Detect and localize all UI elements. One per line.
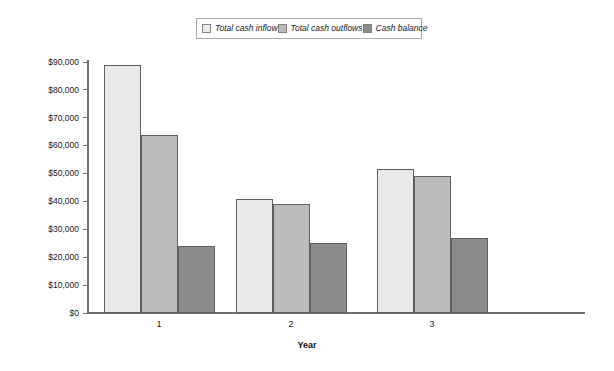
x-axis-tick-label: 2 — [261, 320, 321, 329]
y-axis-tick-label: $70,000 — [48, 114, 83, 123]
y-axis-tick-label: $40,000 — [48, 197, 83, 206]
bar-chart: Total cash inflow Total cash outflows Ca… — [0, 0, 614, 371]
plot-area — [87, 62, 585, 313]
bar[interactable] — [414, 176, 451, 313]
legend-swatch-icon — [202, 24, 211, 33]
bar-group — [236, 62, 347, 313]
y-axis-tick-label: $50,000 — [48, 169, 83, 178]
y-axis-tick-label: $0 — [70, 309, 83, 318]
y-axis-tick-label: $90,000 — [48, 58, 83, 67]
legend-item-total-cash-inflow: Total cash inflow — [202, 24, 278, 33]
y-axis-tick-label: $20,000 — [48, 253, 83, 262]
legend-item-cash-balance: Cash balance — [363, 24, 428, 33]
bar[interactable] — [273, 204, 310, 313]
y-axis-tick-label: $10,000 — [48, 281, 83, 290]
x-axis-tick-label: 1 — [129, 320, 189, 329]
y-axis-tick-label: $30,000 — [48, 225, 83, 234]
bar-group — [104, 62, 215, 313]
bar[interactable] — [310, 243, 347, 313]
legend-label: Cash balance — [376, 24, 428, 33]
y-axis-tick-label: $80,000 — [48, 86, 83, 95]
legend-swatch-icon — [278, 24, 287, 33]
bar[interactable] — [178, 246, 215, 313]
bar[interactable] — [236, 199, 273, 313]
legend-label: Total cash inflow — [215, 24, 278, 33]
bar-group — [377, 62, 488, 313]
chart-legend: Total cash inflow Total cash outflows Ca… — [196, 18, 422, 39]
bar[interactable] — [104, 65, 141, 313]
x-axis-tick-label: 3 — [402, 320, 462, 329]
legend-swatch-icon — [363, 24, 372, 33]
legend-item-total-cash-outflows: Total cash outflows — [278, 24, 363, 33]
bar[interactable] — [451, 238, 488, 313]
bar[interactable] — [141, 135, 178, 313]
y-axis-tick-label: $60,000 — [48, 141, 83, 150]
bar[interactable] — [377, 169, 414, 313]
legend-label: Total cash outflows — [291, 24, 363, 33]
x-axis-title: Year — [0, 341, 614, 350]
